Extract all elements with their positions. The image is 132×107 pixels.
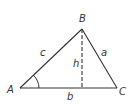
vertex-label-b: B xyxy=(79,13,86,24)
side-label-c: c xyxy=(40,47,46,58)
side-label-b: b xyxy=(67,91,73,102)
side-label-a: a xyxy=(101,47,107,58)
vertex-label-c: C xyxy=(119,86,126,97)
triangle-diagram: A B C c a b h xyxy=(0,0,132,107)
height-label-h: h xyxy=(73,58,79,69)
vertex-label-a: A xyxy=(6,84,14,95)
side-a xyxy=(82,29,117,88)
angle-arc-a xyxy=(34,75,40,88)
